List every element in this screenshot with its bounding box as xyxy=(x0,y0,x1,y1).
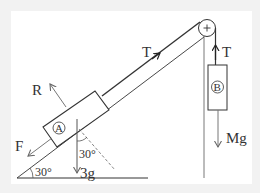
label-block-b: B xyxy=(214,81,221,93)
label-normal-force: R xyxy=(32,82,42,98)
incline-angle-arc xyxy=(30,168,33,178)
friction-force-arrow xyxy=(28,138,52,156)
label-tension-b: T xyxy=(222,44,231,60)
block-a xyxy=(43,91,109,147)
label-tension-string: T xyxy=(142,44,151,60)
label-friction-force: F xyxy=(15,138,23,154)
weight-angle-arc xyxy=(77,137,87,141)
tension-arrow-string xyxy=(152,53,160,59)
label-weight-a: 3g xyxy=(80,165,96,181)
incline-surface xyxy=(17,37,204,178)
pulley-incline-diagram: R F T T Mg 3g 30° 30° A B xyxy=(0,0,260,193)
label-block-a: A xyxy=(55,122,63,134)
label-weight-b: Mg xyxy=(226,130,247,146)
label-weight-angle: 30° xyxy=(79,147,96,161)
label-incline-angle: 30° xyxy=(35,165,52,179)
pulley xyxy=(199,20,216,37)
normal-force-arrow xyxy=(50,84,66,107)
